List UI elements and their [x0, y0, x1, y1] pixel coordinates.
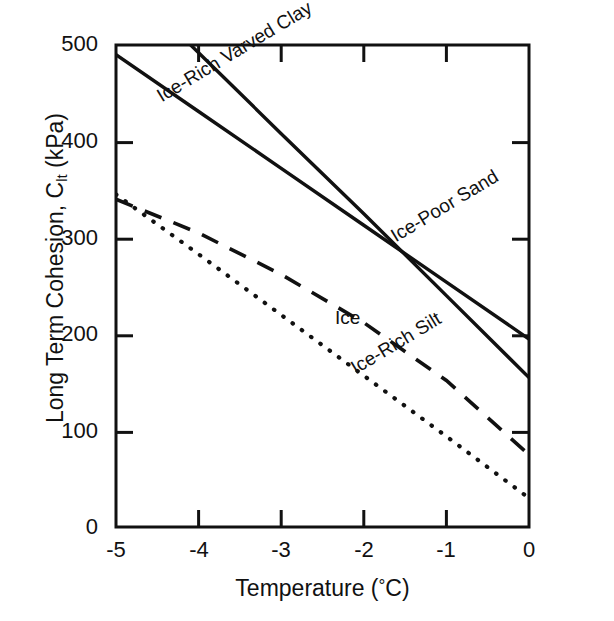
x-tick-label-minus3: -3 — [251, 537, 311, 563]
y-tick-label-400: 400 — [36, 128, 98, 154]
series-ice-rich-varved-clay — [116, 0, 529, 378]
figure-container: Long Term Cohesion, Clt (kPa) Temperatur… — [0, 0, 614, 621]
x-tick-label-minus4: -4 — [169, 537, 229, 563]
x-tick-label-minus1: -1 — [416, 537, 476, 563]
x-axis-ticks — [199, 45, 447, 527]
plot-frame — [116, 45, 529, 527]
x-tick-label-0: 0 — [499, 537, 559, 563]
x-tick-label-minus5: -5 — [86, 537, 146, 563]
y-axis-ticks — [116, 143, 529, 433]
y-tick-label-500: 500 — [36, 31, 98, 57]
series-ice-poor-sand — [116, 55, 529, 339]
y-tick-label-100: 100 — [36, 418, 98, 444]
y-tick-label-300: 300 — [36, 225, 98, 251]
y-tick-label-200: 200 — [36, 321, 98, 347]
x-tick-label-minus2: -2 — [334, 537, 394, 563]
plot-border — [116, 45, 529, 527]
series-ice — [116, 199, 529, 454]
series-ice-rich-silt — [116, 194, 529, 498]
series-group — [116, 0, 529, 498]
